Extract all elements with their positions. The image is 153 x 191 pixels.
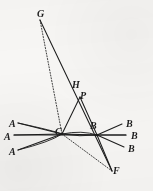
- label-B1: B: [126, 119, 133, 129]
- label-P: P: [80, 91, 86, 101]
- label-B3: B: [128, 144, 135, 154]
- seg-B-B1: [97, 124, 122, 135]
- label-F: F: [113, 166, 120, 176]
- segment-layer: [14, 20, 126, 171]
- geometry-figure: GHPAAABBBBCF: [0, 0, 153, 191]
- label-B2: B: [131, 131, 138, 141]
- label-G: G: [37, 9, 44, 19]
- label-A3: A: [9, 147, 16, 157]
- seg-C-P: [62, 97, 80, 134]
- label-C: C: [55, 127, 62, 137]
- label-H: H: [72, 80, 80, 90]
- vertex-node-B: [96, 134, 98, 136]
- figure-canvas: [0, 0, 153, 191]
- seg-G-C: [40, 20, 62, 134]
- label-Bc: B: [90, 121, 97, 131]
- seg-G-F: [40, 20, 112, 171]
- label-A2: A: [4, 132, 11, 142]
- label-A1: A: [9, 119, 16, 129]
